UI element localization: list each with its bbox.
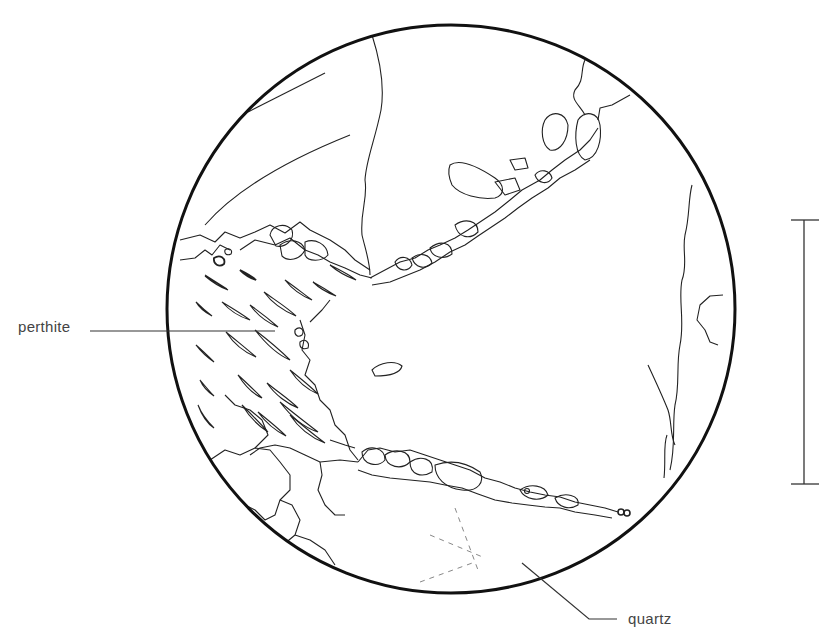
thin-section-figure	[0, 0, 837, 639]
scale-bar	[791, 220, 819, 484]
quartz-leader-line	[522, 563, 617, 619]
grain-boundaries	[180, 35, 723, 565]
quartz-label: quartz	[628, 610, 672, 627]
quartz-twin-lines	[420, 508, 485, 582]
perthite-label: perthite	[18, 318, 70, 335]
